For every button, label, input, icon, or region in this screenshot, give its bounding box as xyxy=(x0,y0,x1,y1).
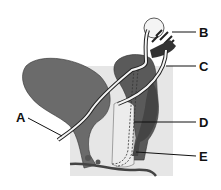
urethra-column xyxy=(112,101,134,167)
small-gland-1 xyxy=(85,155,91,161)
small-gland-2 xyxy=(96,160,101,165)
label-a: A xyxy=(16,111,25,124)
anatomy-diagram xyxy=(0,0,221,190)
label-c: C xyxy=(199,60,208,73)
leader-a xyxy=(28,118,62,136)
label-b: B xyxy=(199,26,208,39)
dark-wedge xyxy=(150,40,176,58)
label-d: D xyxy=(199,116,208,129)
label-e: E xyxy=(199,150,208,163)
